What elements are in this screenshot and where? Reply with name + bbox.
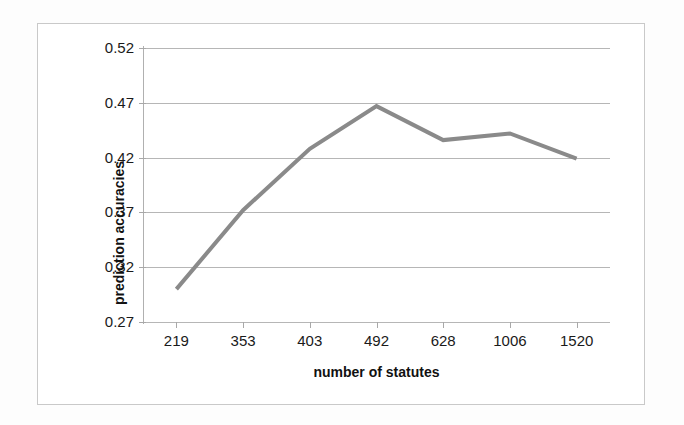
x-tick-mark [176, 322, 177, 328]
y-tick-label: 0.52 [74, 40, 134, 55]
gridline-y [143, 103, 610, 104]
x-tick-mark [243, 322, 244, 328]
x-tick-label: 1006 [475, 333, 545, 348]
y-tick-mark [139, 158, 146, 159]
x-tick-mark [577, 322, 578, 328]
y-axis-title-container: prediction accuracies [57, 105, 81, 275]
gridline-y [143, 212, 610, 213]
y-tick-mark [139, 48, 146, 49]
y-axis-title: prediction accuracies [111, 123, 127, 343]
x-tick-label: 492 [342, 333, 412, 348]
y-tick-mark [139, 267, 146, 268]
y-tick-mark [139, 322, 146, 323]
x-tick-mark [510, 322, 511, 328]
x-tick-label: 1520 [542, 333, 612, 348]
x-tick-mark [310, 322, 311, 328]
gridline-y [143, 267, 610, 268]
x-tick-label: 353 [208, 333, 278, 348]
gridline-y [143, 158, 610, 159]
x-tick-label: 628 [408, 333, 478, 348]
x-tick-label: 219 [141, 333, 211, 348]
figure-canvas: 0.270.320.370.420.470.52 prediction accu… [0, 0, 684, 425]
y-tick-label: 0.47 [74, 95, 134, 110]
gridline-y [143, 48, 610, 49]
x-tick-label: 403 [275, 333, 345, 348]
plot-area [143, 48, 610, 322]
x-tick-mark [377, 322, 378, 328]
x-tick-mark [443, 322, 444, 328]
x-axis-tick-labels: 21935340349262810061520 [143, 333, 610, 357]
y-tick-mark [139, 103, 146, 104]
y-tick-mark [139, 212, 146, 213]
x-axis-title: number of statutes [143, 364, 610, 380]
